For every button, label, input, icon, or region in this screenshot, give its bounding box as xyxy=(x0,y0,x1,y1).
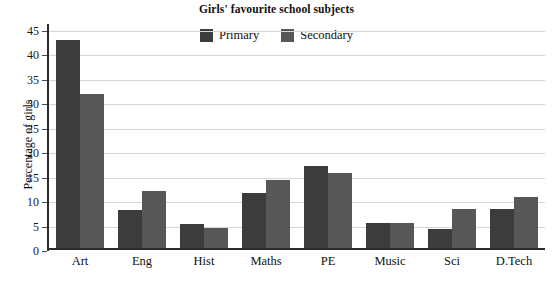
y-tick-label: 45 xyxy=(27,23,39,38)
chart-title: Girls' favourite school subjects xyxy=(0,3,553,15)
category-label-music: Music xyxy=(374,254,405,269)
bar-group xyxy=(118,23,166,248)
y-tick-label: 20 xyxy=(27,146,39,161)
category-label-eng: Eng xyxy=(132,254,152,269)
category-label-art: Art xyxy=(72,254,89,269)
category-label-dtech: D.Tech xyxy=(496,254,532,269)
bar-secondary-music xyxy=(390,223,414,248)
bar-secondary-maths xyxy=(266,180,290,248)
y-tick-label: 25 xyxy=(27,121,39,136)
y-tick-label: 10 xyxy=(27,195,39,210)
y-tick-mark xyxy=(42,202,47,203)
bar-primary-hist xyxy=(180,224,204,248)
y-tick-mark xyxy=(42,31,47,32)
bar-primary-eng xyxy=(118,210,142,248)
y-tick-mark xyxy=(42,80,47,81)
category-label-maths: Maths xyxy=(250,254,281,269)
bars-layer xyxy=(49,23,545,248)
bar-primary-sci xyxy=(428,229,452,248)
bar-secondary-pe xyxy=(328,173,352,248)
bar-primary-art xyxy=(56,40,80,248)
category-label-pe: PE xyxy=(321,254,336,269)
plot-area: 051015202530354045 xyxy=(47,24,545,250)
x-axis-line xyxy=(47,248,545,250)
y-tick-mark xyxy=(42,104,47,105)
bar-primary-dtech xyxy=(490,209,514,248)
bar-primary-music xyxy=(366,223,390,248)
bar-secondary-eng xyxy=(142,191,166,248)
bar-group xyxy=(366,23,414,248)
y-tick-mark xyxy=(42,55,47,56)
bar-primary-pe xyxy=(304,166,328,248)
category-label-sci: Sci xyxy=(444,254,460,269)
bar-secondary-art xyxy=(80,94,104,248)
y-tick-mark xyxy=(42,227,47,228)
bar-group xyxy=(56,23,104,248)
bar-group xyxy=(304,23,352,248)
y-tick-label: 15 xyxy=(27,170,39,185)
x-axis-category-labels: ArtEngHistMathsPEMusicSciD.Tech xyxy=(49,254,545,276)
bar-secondary-sci xyxy=(452,209,476,248)
bar-chart: Girls' favourite school subjects Primary… xyxy=(0,0,553,285)
bar-secondary-hist xyxy=(204,228,228,248)
bar-group xyxy=(428,23,476,248)
y-tick-label: 30 xyxy=(27,97,39,112)
bar-primary-maths xyxy=(242,193,266,248)
y-tick-label: 35 xyxy=(27,72,39,87)
y-tick-mark xyxy=(42,129,47,130)
y-tick-label: 5 xyxy=(33,219,39,234)
y-tick-mark xyxy=(42,178,47,179)
bar-group xyxy=(242,23,290,248)
bar-group xyxy=(180,23,228,248)
bar-group xyxy=(490,23,538,248)
y-tick-label: 0 xyxy=(33,244,39,259)
bar-secondary-dtech xyxy=(514,197,538,248)
y-tick-mark xyxy=(42,251,47,252)
category-label-hist: Hist xyxy=(194,254,215,269)
y-tick-mark xyxy=(42,153,47,154)
y-tick-label: 40 xyxy=(27,48,39,63)
